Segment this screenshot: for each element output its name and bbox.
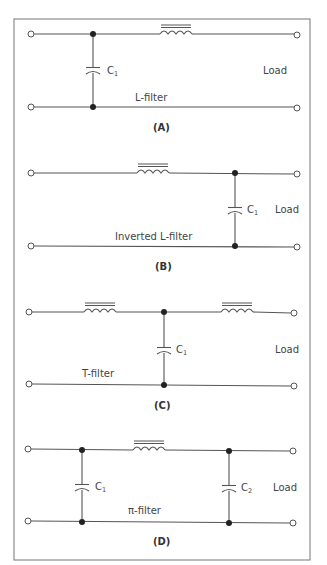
inductor-icon [160,25,192,34]
junction-dot [161,309,167,315]
load-label: Load [275,344,299,355]
output-terminal [294,32,300,38]
input-terminal [28,243,34,249]
input-terminal [28,31,34,37]
panel-label: (A) [153,122,170,133]
output-terminal [294,171,300,177]
panel-a-l-filter: C1 Load L-filter (A) [28,25,300,133]
output-terminal [291,383,297,389]
input-terminal [28,170,34,176]
input-terminal [26,381,32,387]
output-terminal [290,520,296,526]
panel-label: (C) [154,400,170,411]
output-terminal [294,244,300,250]
filter-name: Inverted L-filter [115,231,193,242]
filter-circuits-diagram: C1 Load L-filter (A) C1 Load Inverted L-… [0,0,327,565]
panel-d-pi-filter: C1 C2 Load π-filter (D) [25,441,297,547]
inductor-icon [221,303,253,312]
capacitor-label: C2 [241,482,252,495]
capacitor-label: C1 [95,481,106,494]
capacitor-label: C1 [176,344,187,357]
junction-dot [232,243,238,249]
junction-dot [226,520,232,526]
filter-name: T-filter [81,368,115,379]
input-terminal [25,446,31,452]
output-terminal [291,310,297,316]
junction-dot [79,519,85,525]
filter-name: π-filter [128,505,162,516]
output-terminal [294,105,300,111]
inductor-icon [133,441,165,450]
panel-c-t-filter: C1 Load T-filter (C) [26,303,299,411]
input-terminal [28,104,34,110]
panel-label: (B) [155,261,172,272]
load-label: Load [273,482,297,493]
junction-dot [90,31,96,37]
junction-dot [161,382,167,388]
junction-dot [226,448,232,454]
load-label: Load [263,65,287,76]
output-terminal [290,448,296,454]
input-terminal [26,309,32,315]
capacitor-label: C1 [107,65,118,78]
load-label: Load [275,204,299,215]
filter-name: L-filter [135,92,168,103]
panel-label: (D) [153,536,170,547]
inductor-icon [84,303,116,312]
input-terminal [25,518,31,524]
junction-dot [232,170,238,176]
panel-b-inverted-l-filter: C1 Load Inverted L-filter (B) [28,164,300,272]
junction-dot [90,104,96,110]
junction-dot [79,447,85,453]
inductor-icon [137,164,169,173]
capacitor-label: C1 [247,204,258,217]
